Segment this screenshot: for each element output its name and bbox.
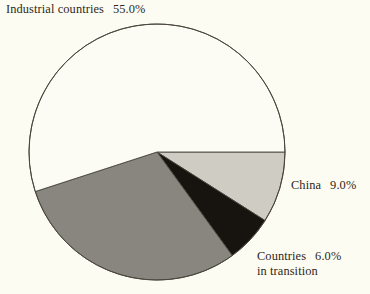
slice-label-countries-in-transition-name: Countries <box>257 249 306 263</box>
slice-label-china: China9.0% <box>291 178 356 193</box>
slice-label-countries-in-transition: Countries6.0% in transition <box>257 249 341 279</box>
slice-label-china-name: China <box>291 178 321 192</box>
slice-label-countries-in-transition-value: 6.0% <box>306 249 341 263</box>
slice-label-industrial-countries-value: 55.0% <box>104 2 146 16</box>
slice-label-industrial-countries-name: Industrial countries <box>6 2 104 16</box>
pie-chart-figure: Industrial countries55.0% China9.0% Coun… <box>0 0 370 294</box>
slice-label-countries-in-transition-name-line2: in transition <box>257 264 341 279</box>
slice-label-industrial-countries: Industrial countries55.0% <box>6 2 146 17</box>
slice-label-china-value: 9.0% <box>321 178 356 192</box>
